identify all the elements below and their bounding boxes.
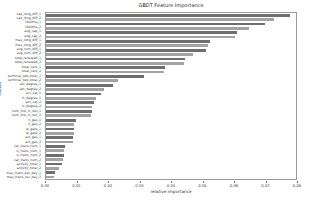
bar — [46, 110, 92, 113]
x-tick-label: 0.03 — [135, 183, 143, 188]
bar — [46, 158, 63, 161]
bar — [46, 14, 290, 17]
x-tick-labels: 0.000.010.020.030.040.050.060.070.08 — [45, 181, 297, 189]
x-tick-label: 0.01 — [72, 183, 80, 188]
bar — [46, 44, 208, 47]
bar — [46, 114, 91, 117]
bar — [46, 101, 94, 104]
bar — [46, 167, 59, 170]
bar — [46, 79, 118, 82]
bar — [46, 93, 101, 96]
bar — [46, 128, 74, 131]
bar — [46, 136, 73, 139]
bar — [46, 106, 92, 109]
bar — [46, 97, 96, 100]
bar — [46, 176, 54, 179]
x-tick-label: 0.08 — [293, 183, 301, 188]
chart-title: GBDT Feature Importance — [45, 2, 297, 9]
bar — [46, 18, 274, 21]
bar — [46, 36, 235, 39]
bar — [46, 40, 210, 43]
bar — [46, 84, 113, 87]
bar — [46, 154, 64, 157]
bar — [46, 163, 62, 166]
bar — [46, 145, 65, 148]
x-tick-label: 0.05 — [198, 183, 206, 188]
bar — [46, 58, 185, 61]
y-tick-labels: cap_long_diff_1cap_long_diff_2lifetime_1… — [0, 12, 43, 180]
bar — [46, 119, 76, 122]
bar — [46, 31, 237, 34]
bar-series — [46, 13, 296, 179]
x-tick-label: 0.06 — [230, 183, 238, 188]
x-tick-label: 0.07 — [261, 183, 269, 188]
y-tick-label: max_trans_rec_day_2 — [0, 176, 43, 180]
bar — [46, 123, 74, 126]
bar — [46, 88, 104, 91]
x-axis-label: relative importance — [45, 189, 297, 194]
bar — [46, 141, 73, 144]
bar-row — [46, 175, 296, 179]
x-tick-label: 0.04 — [167, 183, 175, 188]
bar — [46, 132, 74, 135]
bar — [46, 53, 193, 56]
bar — [46, 62, 184, 65]
bar — [46, 49, 206, 52]
bar — [46, 75, 144, 78]
bar — [46, 171, 55, 174]
bar — [46, 23, 265, 26]
x-tick-label: 0.00 — [41, 183, 49, 188]
feature-importance-figure: GBDT Feature Importance feature cap_long… — [0, 0, 309, 205]
bar — [46, 71, 164, 74]
bar — [46, 149, 64, 152]
bar — [46, 66, 165, 69]
bar — [46, 27, 249, 30]
x-tick-label: 0.02 — [104, 183, 112, 188]
plot-area — [45, 12, 297, 180]
